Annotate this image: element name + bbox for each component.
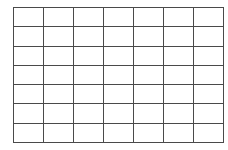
grid-cell — [44, 65, 74, 84]
grid-row — [14, 104, 224, 123]
grid-cell — [134, 104, 164, 123]
grid-cell — [44, 104, 74, 123]
grid-cell — [74, 123, 104, 142]
grid-cell — [164, 46, 194, 65]
grid-cell — [194, 85, 224, 104]
grid-cell — [104, 65, 134, 84]
grid-cell — [194, 46, 224, 65]
grid-row — [14, 8, 224, 27]
grid-cell — [44, 85, 74, 104]
canvas — [0, 0, 228, 150]
grid-cell — [14, 65, 44, 84]
grid-cell — [194, 123, 224, 142]
grid-cell — [14, 27, 44, 46]
grid-cell — [104, 46, 134, 65]
grid-cell — [164, 27, 194, 46]
grid-cell — [74, 85, 104, 104]
grid-cell — [134, 85, 164, 104]
grid-cell — [104, 8, 134, 27]
grid-cell — [164, 123, 194, 142]
grid-row — [14, 123, 224, 142]
grid-cell — [134, 8, 164, 27]
grid-cell — [194, 8, 224, 27]
grid-cell — [164, 85, 194, 104]
grid-cell — [44, 27, 74, 46]
grid-cell — [104, 85, 134, 104]
grid-cell — [14, 8, 44, 27]
grid-cell — [14, 123, 44, 142]
grid-row — [14, 65, 224, 84]
grid-cell — [164, 104, 194, 123]
grid-row — [14, 85, 224, 104]
grid-cell — [164, 65, 194, 84]
grid-cell — [74, 65, 104, 84]
grid-cell — [104, 104, 134, 123]
grid-cell — [194, 104, 224, 123]
grid-cell — [134, 65, 164, 84]
grid-cell — [104, 27, 134, 46]
grid-cell — [44, 8, 74, 27]
grid-cell — [74, 46, 104, 65]
grid-cell — [134, 46, 164, 65]
grid-cell — [194, 27, 224, 46]
grid-cell — [14, 85, 44, 104]
grid-cell — [194, 65, 224, 84]
grid-cell — [14, 104, 44, 123]
grid-body — [14, 8, 224, 143]
grid-cell — [14, 46, 44, 65]
grid-cell — [74, 8, 104, 27]
grid-cell — [44, 46, 74, 65]
grid-cell — [134, 27, 164, 46]
grid-cell — [164, 8, 194, 27]
grid-row — [14, 27, 224, 46]
grid-cell — [74, 104, 104, 123]
grid-cell — [134, 123, 164, 142]
grid-cell — [44, 123, 74, 142]
grid-cell — [104, 123, 134, 142]
grid-cell — [74, 27, 104, 46]
empty-grid — [13, 7, 224, 143]
grid-row — [14, 46, 224, 65]
